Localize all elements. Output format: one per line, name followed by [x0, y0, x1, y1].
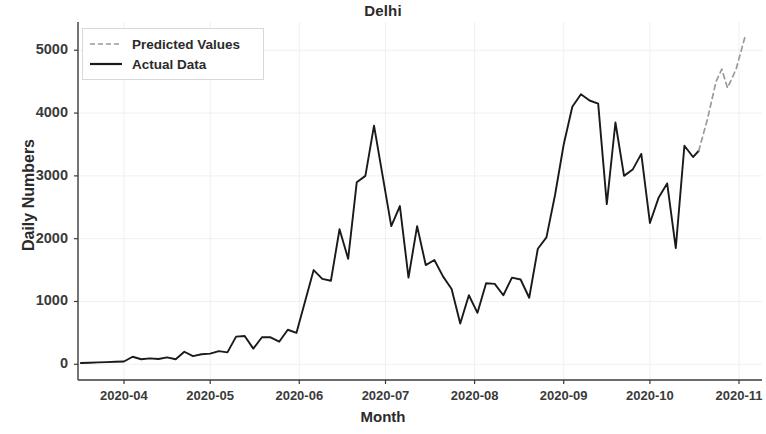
y-tick-label: 3000 — [0, 167, 68, 183]
x-tick-label: 2020-05 — [160, 388, 260, 403]
chart-figure: Delhi Daily Numbers Month Predicted Valu… — [0, 0, 766, 434]
x-tick-label: 2020-06 — [249, 388, 349, 403]
x-tick-label: 2020-10 — [600, 388, 700, 403]
series-line-actual-data — [81, 94, 699, 363]
y-tick-label: 2000 — [0, 230, 68, 246]
solid-line-icon — [89, 58, 123, 70]
y-tick-label: 4000 — [0, 104, 68, 120]
x-tick-label: 2020-11 — [689, 388, 766, 403]
x-tick-label: 2020-08 — [425, 388, 525, 403]
legend-label-predicted: Predicted Values — [132, 37, 240, 52]
y-tick-label: 1000 — [0, 292, 68, 308]
x-tick-label: 2020-07 — [336, 388, 436, 403]
y-axis-label: Daily Numbers — [20, 110, 38, 280]
y-tick-label: 0 — [0, 355, 68, 371]
dashed-line-icon — [89, 38, 123, 50]
x-axis-label: Month — [0, 408, 766, 425]
x-tick-label: 2020-09 — [514, 388, 614, 403]
legend-label-actual: Actual Data — [132, 57, 206, 72]
series-line-predicted-values — [699, 38, 745, 151]
chart-legend: Predicted Values Actual Data — [82, 28, 264, 80]
legend-item-predicted: Predicted Values — [89, 34, 257, 54]
y-tick-label: 5000 — [0, 41, 68, 57]
legend-item-actual: Actual Data — [89, 54, 257, 74]
x-tick-label: 2020-04 — [74, 388, 174, 403]
